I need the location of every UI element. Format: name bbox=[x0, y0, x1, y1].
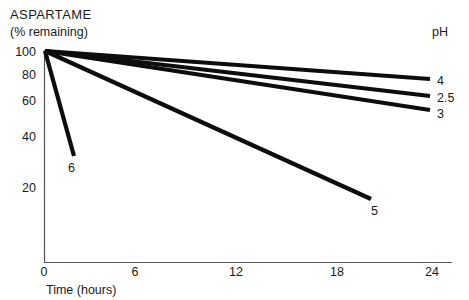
chart-figure: ASPARTAME (% remaining) 100 80 60 40 20 … bbox=[0, 0, 469, 300]
series-line-ph-3 bbox=[45, 51, 430, 110]
series-line-ph-6 bbox=[45, 51, 74, 156]
series-lines bbox=[45, 51, 430, 199]
plot-area bbox=[0, 0, 469, 300]
